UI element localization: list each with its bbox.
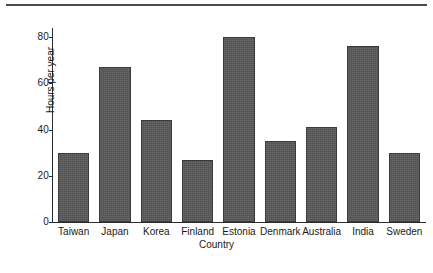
bar-japan: [99, 67, 130, 222]
x-tick-label-japan: Japan: [94, 226, 135, 238]
x-tick-label-finland: Finland: [177, 226, 218, 238]
bar-slot: [136, 28, 177, 222]
x-tick-label-estonia: Estonia: [218, 226, 259, 238]
x-axis-title: Country: [0, 239, 433, 251]
y-axis-title: Hours per year: [45, 25, 57, 135]
bar-slot: [301, 28, 342, 222]
x-tick-label-australia: Australia: [301, 226, 342, 238]
x-tick-label-india: India: [342, 226, 383, 238]
bar-estonia: [223, 37, 254, 222]
bar-slot: [53, 28, 94, 222]
x-axis-line: [52, 222, 426, 223]
bar-sweden: [389, 153, 420, 222]
bar-australia: [306, 127, 337, 222]
bar-slot: [384, 28, 425, 222]
y-tick-label: 20: [37, 171, 49, 181]
x-tick-label-denmark: Denmark: [260, 226, 301, 238]
bar-india: [347, 46, 378, 222]
top-divider-rule: [6, 4, 427, 6]
bar-slot: [94, 28, 135, 222]
x-tick-label-sweden: Sweden: [384, 226, 425, 238]
x-tick-label-taiwan: Taiwan: [53, 226, 94, 238]
bar-slot: [342, 28, 383, 222]
bar-slot: [177, 28, 218, 222]
bar-denmark: [265, 141, 296, 222]
bar-chart-figure: 020406080 TaiwanJapanKoreaFinlandEstonia…: [0, 0, 433, 273]
bar-finland: [182, 160, 213, 222]
bar-korea: [141, 120, 172, 222]
bar-slot: [260, 28, 301, 222]
bar-taiwan: [58, 153, 89, 222]
y-tick-mark: [49, 222, 53, 223]
y-tick-label: 0: [43, 217, 49, 227]
bar-slot: [218, 28, 259, 222]
x-tick-label-korea: Korea: [136, 226, 177, 238]
plot-area: 020406080: [53, 28, 425, 222]
bar-series: [53, 28, 425, 222]
